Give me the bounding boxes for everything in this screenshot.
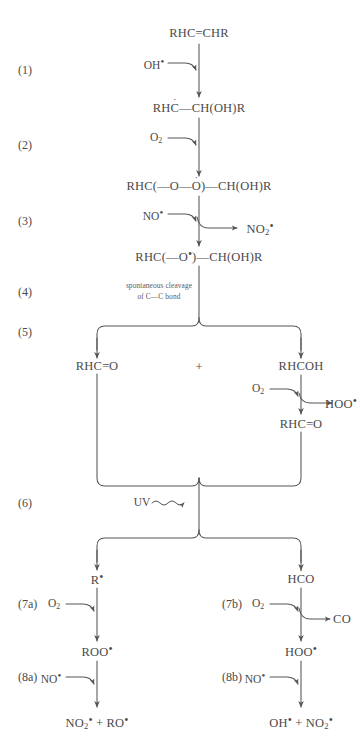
annotation-spontaneous-cleavage: spontaneous cleavage of C—C bond (126, 281, 192, 302)
step-label-7b: (7b) (222, 597, 242, 612)
species-hydroperoxyl-radical: HOO• (285, 642, 317, 661)
step-label-2: (2) (18, 138, 32, 153)
products-left: NO2• + RO• (66, 713, 129, 732)
byproduct-hydroperoxyl: HOO• (325, 394, 357, 413)
cleavage-line-1: spontaneous cleavage (126, 281, 192, 290)
products-right: OH• + NO2• (269, 713, 333, 732)
species-alkene: RHC=CHR (169, 26, 228, 41)
reagent-hydroxyl-radical: OH• (144, 55, 164, 70)
byproduct-carbon-monoxide: CO (333, 612, 351, 627)
byproduct-nitrogen-dioxide: NO2• (246, 219, 273, 238)
cleavage-line-2: of C—C bond (138, 292, 181, 301)
annotation-uv: UV (134, 496, 151, 508)
step-label-3: (3) (18, 214, 32, 229)
reagent-nitric-oxide-step3: NO• (143, 206, 163, 221)
species-aldehyde-right: RHC=O (280, 417, 322, 432)
step-label-8a: (8a) (18, 670, 37, 685)
species-alkoxy-radical: RHC(—O•)—CH(OH)R (135, 247, 262, 266)
species-alkylperoxy-radical: ROO• (81, 642, 112, 661)
species-carbon-radical: RHC˙—CH(OH)R (153, 101, 246, 116)
reagent-nitric-oxide-step8a: NO• (41, 669, 61, 684)
step-label-5: (5) (18, 325, 32, 340)
step-label-8b: (8b) (222, 670, 242, 685)
reagent-oxygen-step5: O2 (252, 382, 264, 396)
reagent-oxygen-step2: O2 (150, 131, 162, 145)
reagent-nitric-oxide-step8b: NO• (245, 669, 265, 684)
plus-sign: + (195, 360, 202, 375)
species-alkyl-radical: R• (91, 570, 104, 589)
species-hydroxyalkyl-radical: RHC˙OH (279, 359, 324, 374)
reagent-oxygen-step7b: O2 (252, 597, 264, 611)
species-aldehyde-left: RHC=O (76, 359, 118, 374)
step-label-6: (6) (18, 496, 32, 511)
reagent-oxygen-step7a: O2 (48, 597, 60, 611)
step-label-7a: (7a) (18, 597, 37, 612)
step-label-4: (4) (18, 285, 32, 300)
step-label-1: (1) (18, 63, 32, 78)
species-formyl-radical: HC˙O (287, 572, 314, 587)
species-peroxy-radical: RHC(—O—O˙)—CH(OH)R (126, 179, 271, 194)
